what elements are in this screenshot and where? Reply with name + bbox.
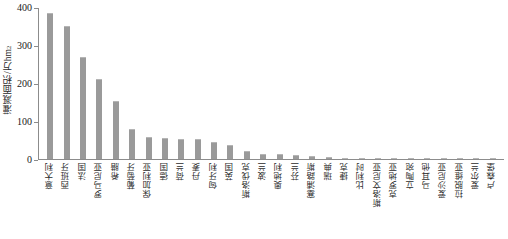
bar[interactable] bbox=[309, 156, 315, 159]
bar-slot bbox=[108, 8, 124, 159]
bar-slot bbox=[206, 8, 222, 159]
bar-slot bbox=[337, 8, 353, 159]
bar-slot bbox=[485, 8, 501, 159]
x-axis-label: 英国 bbox=[226, 162, 235, 180]
x-label-slot: 卢森堡 bbox=[485, 162, 501, 239]
bar-slot bbox=[140, 8, 156, 159]
x-label-slot: 克罗地亚 bbox=[386, 162, 402, 239]
bar-slot bbox=[435, 8, 451, 159]
x-label-slot: 芬兰 bbox=[288, 162, 304, 239]
x-label-slot: 捷克 bbox=[337, 162, 353, 239]
x-axis-label: 斯洛伐克 bbox=[243, 162, 252, 198]
x-label-slot: 瑞典 bbox=[321, 162, 337, 239]
x-axis-label: 罗马尼亚 bbox=[95, 162, 104, 198]
x-label-slot: 爱沙尼亚 bbox=[435, 162, 451, 239]
x-axis-label: 德国 bbox=[161, 162, 170, 180]
bar[interactable] bbox=[375, 158, 381, 159]
x-label-slot: 匈牙利 bbox=[206, 162, 222, 239]
x-label-slot: 法国 bbox=[75, 162, 91, 239]
x-label-slot: 比利时 bbox=[353, 162, 369, 239]
x-axis-label: 西班牙 bbox=[62, 162, 71, 189]
x-label-slot: 奥地利 bbox=[271, 162, 287, 239]
bar[interactable] bbox=[162, 138, 168, 159]
bar[interactable] bbox=[146, 137, 152, 159]
bar-slot bbox=[403, 8, 419, 159]
x-axis-label: 爱尔兰 bbox=[472, 162, 481, 189]
x-axis-label: 葡萄牙 bbox=[128, 162, 137, 189]
bar-slot bbox=[58, 8, 74, 159]
x-axis-label: 克罗地亚 bbox=[390, 162, 399, 198]
x-label-slot: 立陶宛 bbox=[403, 162, 419, 239]
bar[interactable] bbox=[178, 139, 184, 159]
bar[interactable] bbox=[293, 155, 299, 159]
bar[interactable] bbox=[490, 158, 496, 159]
bar[interactable] bbox=[211, 142, 217, 159]
x-label-slot: 西班牙 bbox=[58, 162, 74, 239]
x-axis-label: 匈牙利 bbox=[210, 162, 219, 189]
y-axis-title-superscript: 2 bbox=[5, 46, 12, 49]
y-axis-tick-label: 300 bbox=[17, 41, 32, 51]
bar-slot bbox=[288, 8, 304, 159]
bar[interactable] bbox=[47, 13, 53, 159]
y-axis-tick-mark bbox=[34, 122, 38, 123]
bar[interactable] bbox=[441, 158, 447, 159]
bar-slot bbox=[75, 8, 91, 159]
bar-slot bbox=[386, 8, 402, 159]
bar[interactable] bbox=[129, 129, 135, 159]
x-axis-label: 法国 bbox=[79, 162, 88, 180]
x-axis-label: 保加利亚 bbox=[144, 162, 153, 198]
y-axis-tick-label: 200 bbox=[17, 79, 32, 89]
y-axis-tick-label: 0 bbox=[27, 155, 32, 165]
x-axis-label: 比利时 bbox=[357, 162, 366, 189]
bar[interactable] bbox=[473, 158, 479, 159]
x-axis-label: 荷兰 bbox=[177, 162, 186, 180]
x-label-slot: 希腊 bbox=[108, 162, 124, 239]
bar-slot bbox=[157, 8, 173, 159]
y-axis-title: 灌溉面积/万hm2 bbox=[0, 0, 16, 160]
bar[interactable] bbox=[391, 158, 397, 159]
bar-slot bbox=[468, 8, 484, 159]
x-label-slot: 斯洛伐克 bbox=[239, 162, 255, 239]
x-label-slot: 保加利亚 bbox=[140, 162, 156, 239]
bar[interactable] bbox=[260, 154, 266, 159]
x-axis-label: 意大利 bbox=[46, 162, 55, 189]
x-axis-label: 波兰 bbox=[259, 162, 268, 180]
y-axis-tick-label: 400 bbox=[17, 3, 32, 13]
x-axis-label: 卢森堡 bbox=[488, 162, 497, 189]
x-axis-label: 瑞典 bbox=[325, 162, 334, 180]
x-axis-label: 芬兰 bbox=[292, 162, 301, 180]
bar[interactable] bbox=[64, 26, 70, 159]
y-axis-tick-mark bbox=[34, 46, 38, 47]
bar[interactable] bbox=[359, 158, 365, 159]
bar[interactable] bbox=[227, 145, 233, 159]
x-label-slot: 英国 bbox=[222, 162, 238, 239]
bar[interactable] bbox=[424, 158, 430, 159]
x-label-slot: 塞浦路斯 bbox=[304, 162, 320, 239]
bar[interactable] bbox=[244, 151, 250, 159]
x-label-slot: 拉脱维亚 bbox=[452, 162, 468, 239]
bar[interactable] bbox=[326, 157, 332, 159]
bar-slot bbox=[370, 8, 386, 159]
x-axis-label: 捷克 bbox=[341, 162, 350, 180]
x-label-slot: 斯洛文尼亚 bbox=[370, 162, 386, 239]
y-axis-tick-mark bbox=[34, 84, 38, 85]
bar[interactable] bbox=[80, 57, 86, 159]
x-label-slot: 葡萄牙 bbox=[124, 162, 140, 239]
x-axis-label: 塞浦路斯 bbox=[308, 162, 317, 198]
bar[interactable] bbox=[342, 158, 348, 160]
bar[interactable] bbox=[408, 158, 414, 159]
bar-slot bbox=[173, 8, 189, 159]
bar[interactable] bbox=[96, 79, 102, 159]
bar[interactable] bbox=[113, 101, 119, 159]
x-label-slot: 意大利 bbox=[42, 162, 58, 239]
bar[interactable] bbox=[277, 154, 283, 159]
bar[interactable] bbox=[195, 139, 201, 159]
bar-slot bbox=[42, 8, 58, 159]
bar-slot bbox=[452, 8, 468, 159]
x-axis-labels: 意大利西班牙法国罗马尼亚希腊葡萄牙保加利亚德国荷兰丹麦匈牙利英国斯洛伐克波兰奥地… bbox=[39, 162, 504, 239]
bar-slot bbox=[304, 8, 320, 159]
x-label-slot: 丹麦 bbox=[190, 162, 206, 239]
bar-chart: 灌溉面积/万hm2 0100200300400 意大利西班牙法国罗马尼亚希腊葡萄… bbox=[0, 0, 508, 239]
x-axis-label: 丹麦 bbox=[193, 162, 202, 180]
bar[interactable] bbox=[457, 158, 463, 159]
